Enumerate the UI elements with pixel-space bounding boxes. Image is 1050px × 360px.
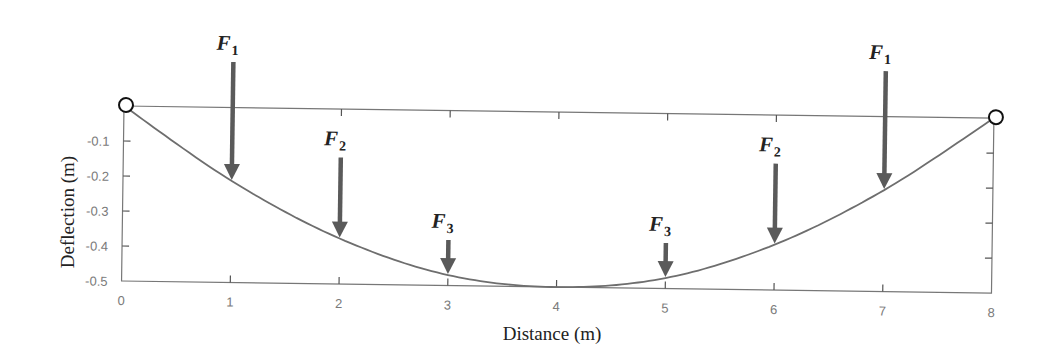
- force-arrow-shaft: [340, 158, 341, 226]
- force-label: F2: [758, 132, 781, 159]
- x-tick-label: 7: [879, 304, 886, 319]
- axes-frame: [122, 106, 994, 293]
- force-arrow-shaft: [232, 62, 233, 168]
- force-arrow-shaft: [884, 71, 885, 177]
- x-tick-label: 0: [118, 293, 125, 308]
- axes-box: [122, 106, 994, 293]
- y-tick-label: -0.5: [85, 273, 108, 288]
- force-label: F2: [323, 126, 346, 153]
- force-f2-at-2: F2: [322, 126, 350, 237]
- x-tick-label: 1: [226, 294, 233, 309]
- force-f2-at-6: F2: [757, 132, 785, 243]
- force-f3-at-3: F3: [430, 209, 457, 274]
- force-label: F1: [215, 31, 238, 58]
- force-f1-at-1: F1: [214, 31, 242, 180]
- x-tick-label: 4: [553, 299, 560, 314]
- force-arrow-shaft: [775, 164, 776, 232]
- x-tick-label: 5: [661, 301, 668, 316]
- x-tick-label: 6: [770, 302, 777, 317]
- deflection-curve: [122, 106, 994, 293]
- force-label: F3: [430, 209, 453, 236]
- pin-supports: [119, 98, 1003, 124]
- x-axis-label: Distance (m): [503, 323, 602, 345]
- x-tick-label: 2: [335, 296, 342, 311]
- y-tick-labels: -0.1-0.2-0.3-0.4-0.5: [85, 133, 110, 288]
- arrow-down-icon: [657, 261, 673, 277]
- pin-support-icon: [119, 98, 133, 112]
- x-tick-label: 3: [444, 297, 451, 312]
- x-tick-label: 8: [987, 305, 994, 320]
- y-axis-label: Deflection (m): [57, 156, 79, 268]
- x-tick-labels: 012345678: [118, 293, 995, 320]
- arrow-down-icon: [440, 258, 456, 274]
- force-f3-at-5: F3: [647, 212, 674, 277]
- force-f1-at-7: F1: [866, 40, 894, 189]
- deflection-chart: 012345678 -0.1-0.2-0.3-0.4-0.5 F1F2F3F3F…: [0, 0, 1050, 360]
- axis-ticks: [122, 106, 994, 293]
- pin-support-icon: [989, 110, 1003, 124]
- force-arrows: F1F2F3F3F2F1: [212, 31, 894, 280]
- y-tick-label: -0.1: [87, 133, 110, 148]
- y-tick-label: -0.4: [86, 238, 109, 253]
- y-tick-label: -0.3: [86, 203, 109, 218]
- y-tick-label: -0.2: [87, 168, 110, 183]
- force-label: F3: [648, 212, 671, 239]
- plot-area: 012345678 -0.1-0.2-0.3-0.4-0.5 F1F2F3F3F…: [85, 29, 1004, 320]
- force-label: F1: [868, 40, 891, 67]
